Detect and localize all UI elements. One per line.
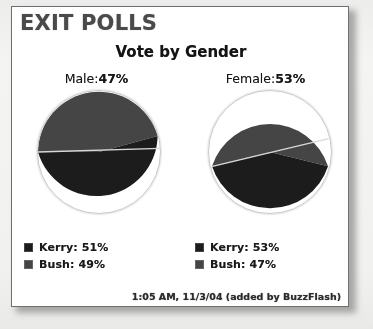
exit-polls-card: EXIT POLLS Vote by Gender Male:47% Kerry…: [11, 6, 349, 307]
bush-swatch: [195, 260, 204, 269]
legend-label: Bush: 47%: [210, 258, 276, 271]
legend-item: Kerry: 51%: [24, 239, 108, 256]
footer-credit: 1:05 AM, 11/3/04 (added by BuzzFlash): [132, 291, 341, 302]
male-legend: Kerry: 51% Bush: 49%: [24, 239, 108, 273]
female-pie-chart: [208, 90, 332, 214]
legend-item: Bush: 47%: [195, 256, 279, 273]
legend-label: Kerry: 53%: [210, 241, 279, 254]
female-group-label: Female:53%: [181, 71, 349, 86]
chart-title: Vote by Gender: [12, 43, 349, 61]
male-pie-svg: [38, 91, 160, 213]
legend-label: Bush: 49%: [39, 258, 105, 271]
male-group-label: Male:47%: [12, 71, 181, 86]
male-label-percent: 47%: [98, 71, 128, 86]
kerry-swatch: [24, 243, 33, 252]
page-title: EXIT POLLS: [20, 11, 157, 35]
scanned-page: EXIT POLLS Vote by Gender Male:47% Kerry…: [0, 0, 373, 329]
female-label-percent: 53%: [275, 71, 305, 86]
legend-item: Bush: 49%: [24, 256, 108, 273]
male-pie-chart: [37, 90, 161, 214]
male-label-text: Male:: [65, 71, 99, 86]
legend-label: Kerry: 51%: [39, 241, 108, 254]
female-pie-svg: [209, 91, 331, 213]
female-label-text: Female:: [226, 71, 275, 86]
kerry-swatch: [195, 243, 204, 252]
bush-swatch: [24, 260, 33, 269]
legend-item: Kerry: 53%: [195, 239, 279, 256]
female-legend: Kerry: 53% Bush: 47%: [195, 239, 279, 273]
